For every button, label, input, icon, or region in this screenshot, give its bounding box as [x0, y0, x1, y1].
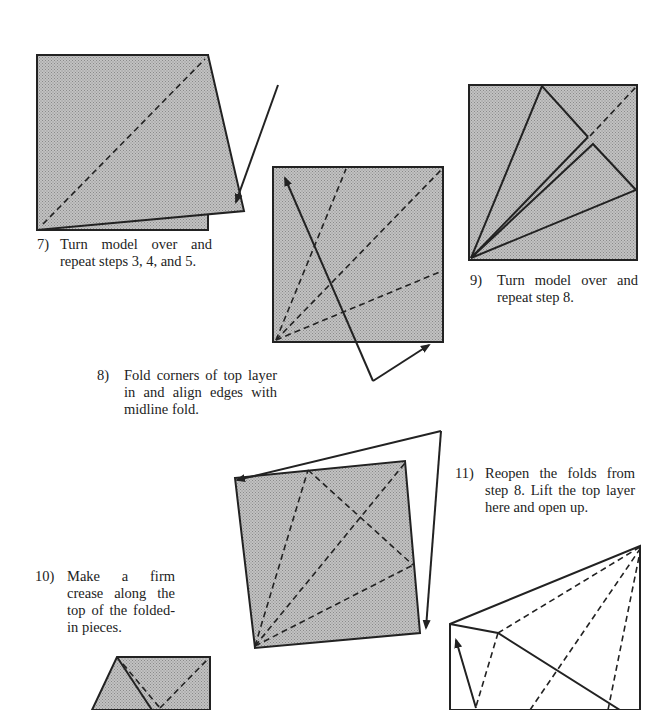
step-text: Reopen the folds from step 8. Lift the t…	[485, 465, 635, 516]
step-11-caption: 11) Reopen the folds from step 8. Lift t…	[455, 465, 635, 516]
step-9-caption: 9) Turn model over and repeat step 8.	[470, 272, 638, 306]
step-10-caption: 10) Make a firm crease along the top of …	[35, 568, 175, 636]
step-number: 7)	[37, 236, 60, 270]
diagram-step-7	[37, 55, 278, 230]
step-number: 8)	[97, 367, 124, 418]
diagram-step-9	[469, 85, 637, 260]
diagram-step-8	[273, 167, 443, 381]
step-8-caption: 8) Fold corners of top layer in and alig…	[97, 367, 277, 418]
step-text: Fold corners of top layer in and align e…	[124, 367, 277, 418]
diagram-step-11	[450, 546, 640, 710]
arrow-icon	[373, 345, 429, 381]
step-number: 10)	[35, 568, 67, 636]
diagram-step-10	[235, 431, 441, 648]
arrow-icon	[426, 431, 441, 628]
arrow-icon	[236, 85, 278, 202]
step-text: Turn model over and repeat step 8.	[497, 272, 638, 306]
step-number: 11)	[455, 465, 485, 516]
step-text: Turn model over and repeat steps 3, 4, a…	[60, 236, 212, 270]
diagram-step-10-partial	[92, 657, 210, 710]
step-text: Make a firm crease along the top of the …	[67, 568, 175, 636]
step-number: 9)	[470, 272, 497, 306]
step-7-caption: 7) Turn model over and repeat steps 3, 4…	[37, 236, 212, 270]
